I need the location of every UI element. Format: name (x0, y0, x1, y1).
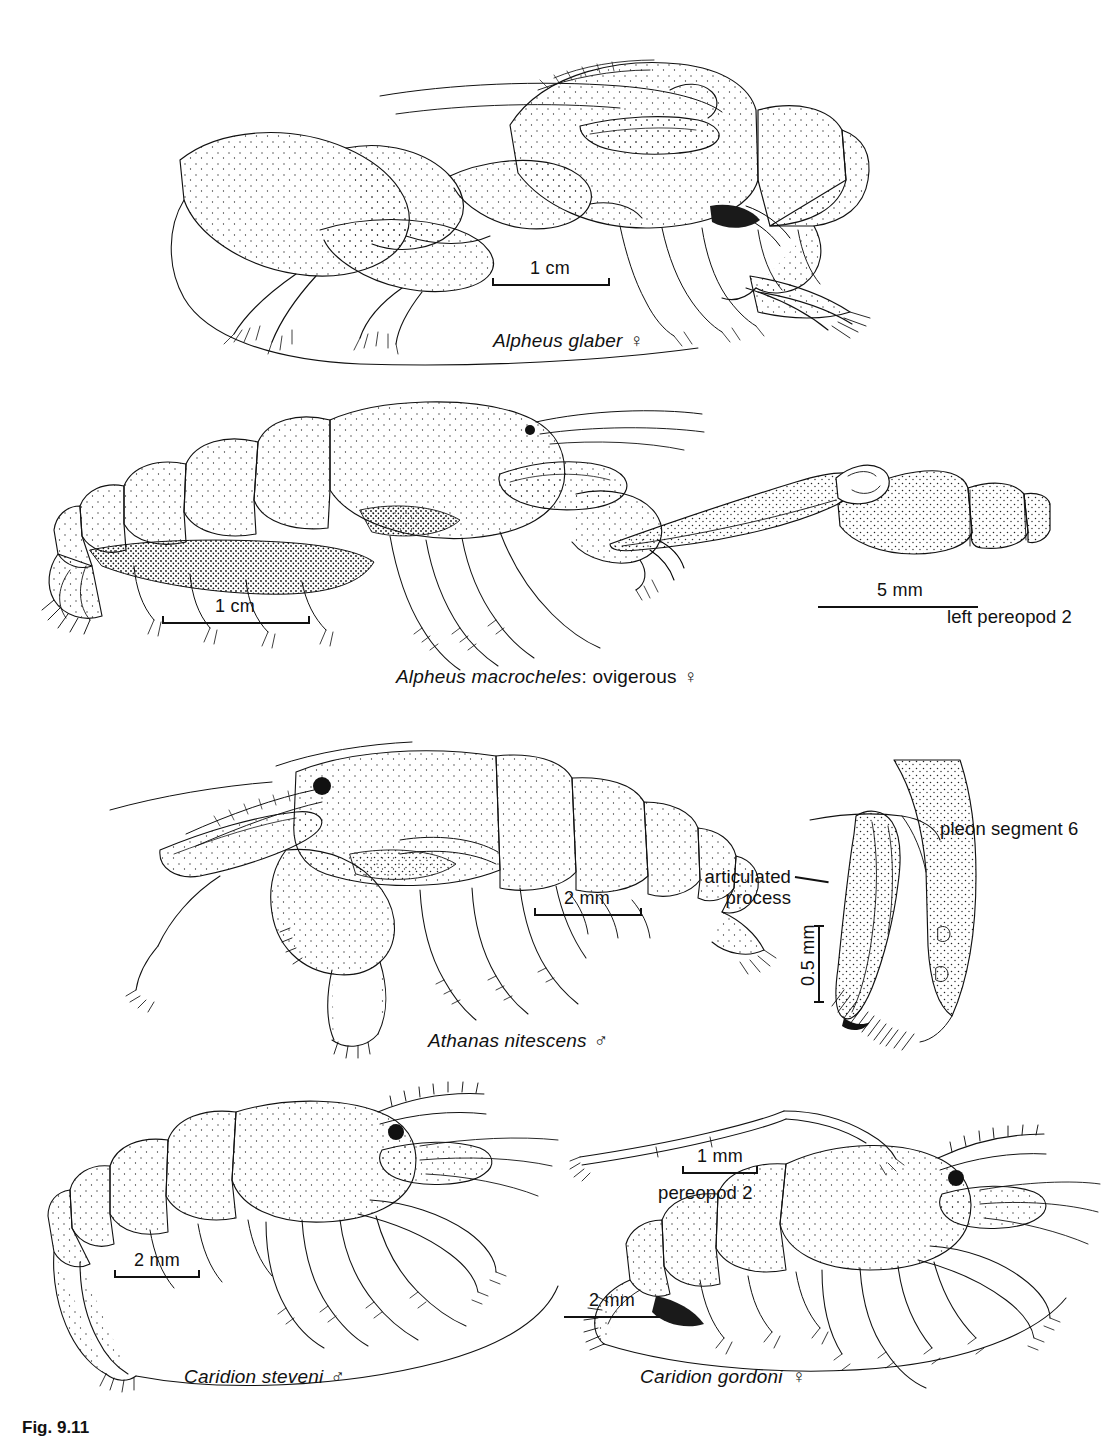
scale-label-0-5mm: 0.5 mm (798, 910, 819, 1000)
species-label-athanas-nitescens: Athanas nitescens♂ (428, 1030, 608, 1052)
species-label-alpheus-macrocheles: Alpheus macrocheles: ovigerous♀ (396, 666, 698, 688)
species-suffix: : ovigerous (581, 666, 676, 687)
sex-symbol-female: ♀ (623, 330, 644, 351)
figure-left-pereopod-2 (600, 440, 1050, 580)
scale-bar-2mm-gordoni (564, 1316, 660, 1318)
callout-articulated-process: articulated process (651, 866, 791, 909)
scale-label-1mm-pereopod: 1 mm (680, 1146, 760, 1167)
species-name: Caridion steveni (184, 1366, 323, 1387)
sex-symbol-female: ♀ (783, 1366, 806, 1387)
sex-symbol-male: ♂ (587, 1030, 608, 1051)
figure-pleon-segment-6 (810, 760, 1010, 1050)
scale-bar-1cm-macrocheles (162, 622, 310, 624)
scale-label-2mm-athanas: 2 mm (532, 888, 642, 909)
scale-label-1cm-macrocheles: 1 cm (160, 596, 310, 617)
scale-bar-1mm-pereopod (682, 1172, 758, 1174)
figure-alpheus-glaber (150, 30, 870, 350)
species-label-alpheus-glaber: Alpheus glaber♀ (493, 330, 644, 352)
scale-label-5mm: 5 mm (840, 580, 960, 601)
scale-bar-2mm-steveni (114, 1276, 200, 1278)
species-label-caridion-steveni: Caridion steveni♂ (184, 1366, 345, 1388)
scale-label-2mm-gordoni: 2 mm (562, 1290, 662, 1311)
scale-bar-0-5mm-cap-top (814, 925, 824, 927)
figure-caridion-steveni (40, 1090, 560, 1390)
scale-bar-1cm-glaber (492, 284, 610, 286)
scale-bar-0-5mm (818, 925, 820, 1003)
callout-line-2: process (651, 887, 791, 908)
scale-label-1cm-glaber: 1 cm (490, 258, 610, 279)
callout-pleon-segment-6: pleon segment 6 (940, 818, 1078, 839)
illustration-plate: 1 cm Alpheus glaber♀ (0, 0, 1120, 1436)
sex-symbol-female: ♀ (677, 666, 698, 687)
part-label-pereopod-2: pereopod 2 (658, 1182, 753, 1203)
species-label-caridion-gordoni: Caridion gordoni♀ (640, 1366, 806, 1388)
scale-label-2mm-steveni: 2 mm (112, 1250, 202, 1271)
species-name: Athanas nitescens (428, 1030, 587, 1051)
species-name: Caridion gordoni (640, 1366, 783, 1387)
species-name: Alpheus macrocheles (396, 666, 581, 687)
scale-bar-0-5mm-cap-bottom (814, 1001, 824, 1003)
callout-line-1: articulated (651, 866, 791, 887)
figure-caption: Fig. 9.11 (22, 1418, 89, 1436)
sex-symbol-male: ♂ (323, 1366, 344, 1387)
scale-bar-2mm-athanas (534, 914, 642, 916)
part-label-left-pereopod-2: left pereopod 2 (947, 606, 1072, 627)
species-name: Alpheus glaber (493, 330, 623, 351)
